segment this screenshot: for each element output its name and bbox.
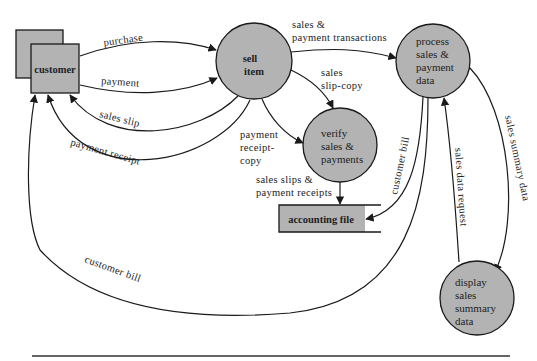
process-display-summary[interactable]: display sales summary data xyxy=(440,261,514,335)
process-label-1: process xyxy=(416,35,449,47)
display-label-4: data xyxy=(455,315,473,327)
flow-label-payment-receipt: payment receipt xyxy=(69,136,141,166)
verify-label-2: sales & xyxy=(321,140,354,152)
display-label-1: display xyxy=(455,276,487,288)
flow-label-payment: payment xyxy=(101,75,140,89)
flow-label-bill-customer: customer bill xyxy=(83,254,142,285)
sell-label-1: sell xyxy=(243,53,258,64)
flow-label-purchase: purchase xyxy=(103,32,144,48)
verify-label-3: payments xyxy=(321,153,363,165)
process-label-4: data xyxy=(416,74,434,86)
flow-summary-data xyxy=(470,68,509,272)
process-label-2: sales & xyxy=(416,48,449,60)
flow-label-receipt-copy-1: payment xyxy=(240,129,278,140)
flow-purchase xyxy=(80,42,216,56)
flow-label-transactions-2: payment transactions xyxy=(292,32,387,43)
display-label-2: sales xyxy=(455,289,476,301)
verify-label-1: verify xyxy=(321,127,348,139)
flow-label-summary-data: sales summary data xyxy=(503,114,532,202)
flow-sales-slip xyxy=(70,95,238,131)
accounting-file-label: accounting file xyxy=(288,214,354,225)
flow-label-bill-store: customer bill xyxy=(388,135,411,195)
process-verify-sales[interactable]: verify sales & payments xyxy=(303,108,377,182)
external-entity-customer[interactable]: customer xyxy=(16,30,79,93)
process-process-sales-data[interactable]: process sales & payment data xyxy=(396,24,470,98)
flow-label-transactions-1: sales & xyxy=(292,19,325,30)
flow-label-slip-copy-1: sales xyxy=(321,67,343,78)
data-flow-diagram: customer sell item process sales & payme… xyxy=(0,0,537,361)
process-label-3: payment xyxy=(416,61,454,73)
flow-label-slips-receipts-1: sales slips & xyxy=(256,174,313,185)
flow-label-receipt-copy-3: copy xyxy=(240,155,262,166)
display-label-3: summary xyxy=(455,302,496,314)
flow-transactions xyxy=(291,50,396,58)
data-store-accounting-file[interactable]: accounting file xyxy=(279,205,381,232)
flow-label-slip-copy-2: slip-copy xyxy=(321,80,363,91)
flow-label-receipt-copy-2: receipt- xyxy=(240,142,275,153)
process-sell-item[interactable]: sell item xyxy=(216,23,292,99)
customer-label: customer xyxy=(34,64,76,75)
flow-label-slips-receipts-2: payment receipts xyxy=(256,187,332,198)
sell-label-2: item xyxy=(244,66,264,77)
flow-label-sales-slip: sales slip xyxy=(99,108,142,129)
